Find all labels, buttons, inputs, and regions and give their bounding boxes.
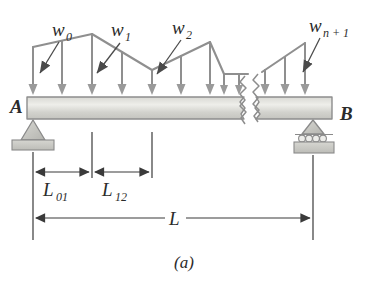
beam: [27, 97, 332, 119]
label-l01: L: [42, 179, 54, 200]
beam-loading-figure: w 0 w 1 w 2 w n + 1 A B L 01 L 12 L (a): [0, 0, 377, 283]
support-a-pin: [12, 120, 54, 150]
figure-caption: (a): [174, 253, 194, 272]
support-b-roller: [294, 120, 334, 153]
label-wn1: w: [309, 15, 322, 36]
label-w0-sub: 0: [66, 30, 72, 44]
label-w1-sub: 1: [125, 30, 131, 44]
label-l12-sub: 12: [115, 190, 127, 204]
label-l12: L: [101, 179, 113, 200]
label-w1: w: [111, 19, 124, 40]
label-l-total: L: [168, 208, 180, 229]
leader-w0: [40, 42, 59, 73]
load-arrowheads-left: [29, 84, 244, 95]
label-wn1-sub: n + 1: [323, 26, 349, 40]
label-l01-sub: 01: [56, 190, 68, 204]
load-profile-right: [262, 43, 305, 72]
label-w2-sub: 2: [186, 28, 192, 42]
label-support-a: A: [9, 96, 23, 117]
leader-w1: [97, 43, 120, 73]
label-support-b: B: [339, 103, 353, 124]
load-arrowheads-right: [261, 84, 310, 95]
label-w2: w: [172, 17, 185, 38]
label-w0: w: [52, 19, 65, 40]
